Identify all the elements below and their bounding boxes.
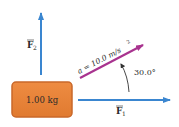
force-diagram: F 2 1.00 kg F 1 a = 10.0 m/s 2 30.0° (0, 0, 179, 127)
force-f2-subscript: 2 (33, 44, 37, 51)
force-f2-label: F 2 (27, 40, 37, 51)
acceleration-text: a = 10.0 m/s (76, 45, 123, 75)
force-f1-subscript: 1 (122, 110, 126, 117)
acceleration-exponent: 2 (125, 38, 131, 45)
mass-label: 1.00 kg (26, 95, 59, 105)
angle-arc (121, 64, 129, 92)
force-f1-label: F 1 (116, 106, 126, 117)
angle-label: 30.0° (134, 68, 156, 77)
